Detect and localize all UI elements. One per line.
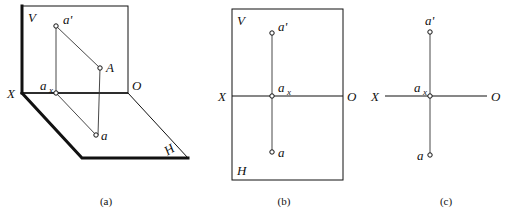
panel-a: V a' A a x a X O H (a) <box>6 6 188 208</box>
point-ax-a <box>54 91 58 95</box>
label-o-origin-b: O <box>347 89 357 104</box>
projector-aprime-to-A-a <box>56 26 100 68</box>
point-a-prime-b <box>270 31 274 35</box>
label-ax-b: a <box>278 80 285 95</box>
caption-panel-a: (a) <box>100 195 113 208</box>
label-v-plane-b: V <box>237 13 247 28</box>
label-o-origin-c: O <box>491 89 501 104</box>
label-ax-subscript-a: x <box>48 85 53 95</box>
projection-figure: V a' A a x a X O H (a) <box>0 0 512 221</box>
label-h-plane-a: H <box>160 140 177 159</box>
point-A-a <box>98 66 102 70</box>
label-a-a: a <box>101 128 108 143</box>
point-a-prime-c <box>428 30 432 34</box>
caption-panel-b: (b) <box>278 195 291 208</box>
panel-b: V H a' a x a X O (b) <box>217 9 357 208</box>
point-a-a <box>94 133 98 137</box>
point-a-b <box>270 150 274 154</box>
label-ax-a: a <box>40 78 47 93</box>
label-v-plane-a: V <box>28 10 38 25</box>
label-o-origin-a: O <box>132 78 142 93</box>
label-h-plane-b: H <box>236 163 247 178</box>
label-a-prime-b: a' <box>278 19 288 34</box>
projector-ax-to-a-a <box>56 93 96 135</box>
label-a-prime-c: a' <box>425 13 435 28</box>
label-x-axis-c: X <box>370 89 380 104</box>
point-a-c <box>428 153 432 157</box>
label-ax-subscript-c: x <box>422 87 427 97</box>
label-A-a: A <box>105 60 114 75</box>
label-ax-c: a <box>414 80 421 95</box>
label-a-b: a <box>278 145 285 160</box>
label-a-c: a <box>417 148 424 163</box>
label-h-plane-group-a: H <box>160 140 177 159</box>
projector-A-to-a-a <box>98 68 100 135</box>
figure-canvas: V a' A a x a X O H (a) <box>0 0 512 221</box>
label-x-axis-b: X <box>217 89 227 104</box>
caption-panel-c: (c) <box>440 195 453 208</box>
panel-c: a' a x a X O (c) <box>370 13 501 208</box>
point-ax-c <box>428 94 432 98</box>
point-a-prime-a <box>54 24 58 28</box>
label-a-prime-a: a' <box>63 12 73 27</box>
v-plane-outline-a <box>22 6 128 93</box>
label-ax-subscript-b: x <box>286 87 291 97</box>
label-x-axis-a: X <box>6 86 16 101</box>
point-ax-b <box>270 94 274 98</box>
